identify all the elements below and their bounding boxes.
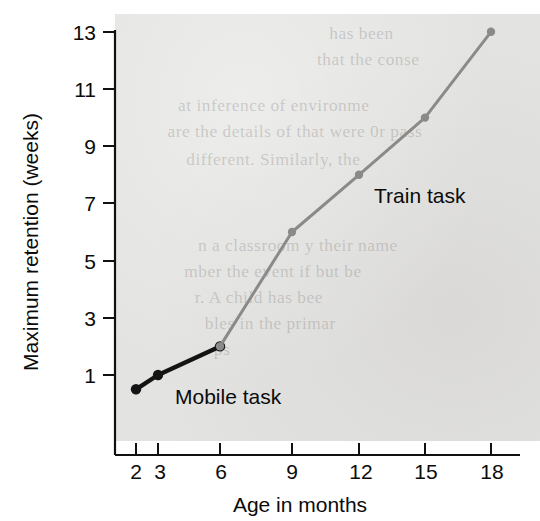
y-tick-label: 11 bbox=[74, 78, 96, 101]
data-point-train-18mo bbox=[487, 28, 495, 36]
y-tick-label: 3 bbox=[84, 307, 96, 330]
series-layer bbox=[131, 28, 495, 395]
x-tick-label: 12 bbox=[349, 460, 372, 483]
x-tick-label: 2 bbox=[130, 460, 142, 483]
data-point-train-12mo bbox=[355, 171, 363, 179]
x-axis: 2 3 6 9 12 15 18 Age in months bbox=[115, 443, 520, 516]
y-tick-label: 7 bbox=[84, 192, 96, 215]
x-tick-label: 18 bbox=[480, 460, 503, 483]
x-axis-title: Age in months bbox=[233, 493, 367, 516]
y-axis-title: Maximum retention (weeks) bbox=[19, 113, 42, 371]
x-tick-label: 9 bbox=[286, 460, 298, 483]
series-annotation-mobile-task: Mobile task bbox=[175, 385, 282, 408]
x-tick-label: 15 bbox=[414, 460, 437, 483]
series-line-mobile bbox=[136, 346, 220, 389]
y-tick-label: 13 bbox=[73, 21, 96, 44]
x-tick-label: 3 bbox=[154, 460, 166, 483]
data-point-mobile-2mo bbox=[131, 384, 141, 394]
data-point-train-6mo bbox=[216, 342, 224, 350]
chart-figure: has been that the conse at inference of … bbox=[0, 0, 540, 521]
y-tick-label: 1 bbox=[84, 364, 96, 387]
y-tick-label: 9 bbox=[84, 135, 96, 158]
y-axis: 13 11 9 7 5 3 1 Maximum retention (weeks… bbox=[19, 21, 115, 455]
series-annotation-train-task: Train task bbox=[374, 184, 466, 207]
x-tick-label: 6 bbox=[215, 460, 227, 483]
data-point-mobile-3mo bbox=[153, 370, 163, 380]
data-point-train-9mo bbox=[288, 228, 296, 236]
data-point-train-15mo bbox=[421, 113, 429, 121]
y-tick-label: 5 bbox=[84, 250, 96, 273]
chart-svg: 13 11 9 7 5 3 1 Maximum retention (weeks… bbox=[0, 0, 540, 521]
